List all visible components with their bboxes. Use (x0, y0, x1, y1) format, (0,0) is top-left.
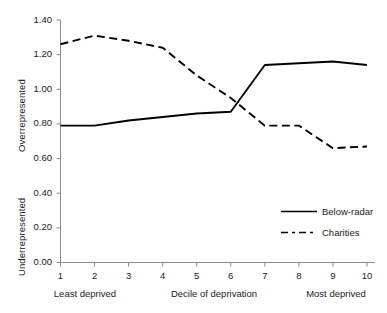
y-tick-label: 0.20 (24, 221, 52, 232)
x-axis-ticks (61, 263, 368, 267)
legend-label-charities: Charities (322, 227, 360, 238)
legend-label-below-radar: Below-radar (322, 206, 373, 217)
y-tick-label: 1.00 (24, 83, 52, 94)
y-tick-label: 1.20 (24, 48, 52, 59)
y-tick-label: 0.00 (24, 256, 52, 267)
series-line-below-radar (61, 62, 368, 126)
data-series-layer (61, 36, 368, 149)
x-tick-label: 4 (153, 270, 173, 281)
legend-samples (281, 212, 317, 233)
x-axis-annotation-center: Decile of deprivation (149, 288, 279, 299)
y-tick-label: 1.40 (24, 14, 52, 25)
x-tick-label: 6 (221, 270, 241, 281)
x-tick-label: 9 (323, 270, 343, 281)
x-tick-label: 5 (187, 270, 207, 281)
y-tick-label: 0.60 (24, 152, 52, 163)
x-tick-label: 7 (255, 270, 275, 281)
x-tick-label: 1 (51, 270, 71, 281)
y-tick-label: 0.40 (24, 187, 52, 198)
series-line-charities (61, 36, 368, 149)
x-axis-annotation-least-deprived: Least deprived (40, 288, 130, 299)
x-axis-annotation-most-deprived: Most deprived (290, 288, 382, 299)
x-tick-label: 3 (119, 270, 139, 281)
chart-figure: Overrepresented Underrepresented 0.000.2… (0, 0, 387, 313)
chart-canvas (0, 0, 387, 313)
x-tick-label: 2 (85, 270, 105, 281)
y-axis-ticks (57, 20, 61, 263)
x-tick-label: 8 (289, 270, 309, 281)
y-tick-label: 0.80 (24, 117, 52, 128)
x-tick-label: 10 (357, 270, 377, 281)
